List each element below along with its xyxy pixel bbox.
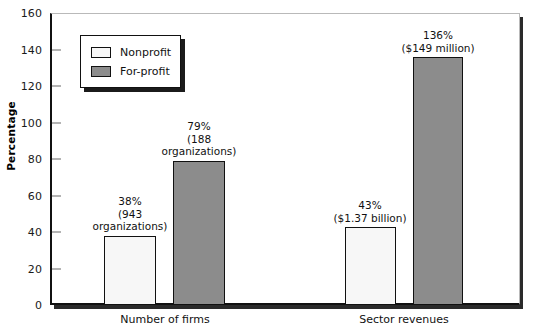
bar-label-nonprofit-sector-revenues: 43% ($1.37 billion) (310, 199, 430, 224)
y-tick-mark-100 (52, 122, 61, 123)
bar-label-for-profit-number-of-firms: 79% (188 organizations) (139, 120, 259, 158)
y-tick-label-100: 100 (21, 116, 42, 129)
legend-item-for-profit: For-profit (91, 62, 180, 81)
bar-label-for-profit-sector-revenues: 136% ($149 million) (378, 29, 498, 54)
bar-label-nonprofit-number-of-firms: 38% (943 organizations) (70, 195, 190, 233)
legend: Nonprofit For-profit (80, 35, 181, 88)
y-tick-label-80: 80 (28, 153, 42, 166)
legend-item-nonprofit: Nonprofit (91, 43, 180, 62)
y-tick-label-20: 20 (28, 262, 42, 275)
bar-chart: Percentage 160 140 120 100 80 60 40 20 0… (0, 0, 535, 335)
x-axis-group-label-number-of-firms: Number of firms (105, 313, 225, 326)
bar-for-profit-sector-revenues (413, 57, 463, 305)
y-tick-mark-60 (52, 195, 61, 196)
y-axis-title: Percentage (5, 81, 17, 191)
bar-nonprofit-sector-revenues (345, 227, 396, 305)
y-tick-mark-140 (52, 49, 61, 50)
legend-swatch-nonprofit (91, 47, 111, 58)
legend-label-for-profit: For-profit (120, 66, 170, 77)
bar-for-profit-number-of-firms (173, 161, 225, 305)
y-tick-mark-40 (52, 232, 61, 233)
x-axis-group-label-sector-revenues: Sector revenues (344, 313, 464, 326)
y-tick-label-140: 140 (21, 43, 42, 56)
bar-nonprofit-number-of-firms (104, 236, 156, 305)
legend-label-nonprofit: Nonprofit (120, 47, 171, 58)
y-tick-label-120: 120 (21, 80, 42, 93)
y-tick-label-40: 40 (28, 226, 42, 239)
y-tick-label-0: 0 (35, 299, 42, 312)
y-tick-label-160: 160 (21, 7, 42, 20)
y-tick-mark-20 (52, 268, 61, 269)
legend-swatch-for-profit (91, 66, 111, 77)
y-tick-mark-80 (52, 159, 61, 160)
y-tick-label-60: 60 (28, 189, 42, 202)
y-tick-mark-120 (52, 86, 61, 87)
y-axis: Percentage 160 140 120 100 80 60 40 20 0 (0, 0, 52, 335)
